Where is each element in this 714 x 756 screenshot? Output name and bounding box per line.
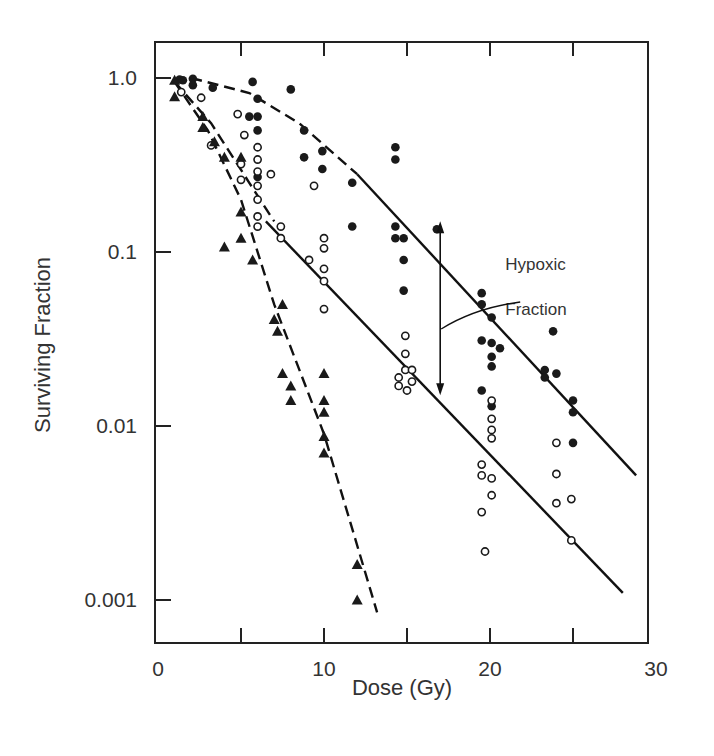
y-tick-label: 1.0 bbox=[108, 66, 137, 89]
open-circle-point bbox=[241, 131, 248, 138]
open-circle-point bbox=[403, 387, 410, 394]
filled-circle-point bbox=[540, 366, 549, 375]
filled-triangle-point bbox=[285, 395, 296, 405]
open-circle-point bbox=[277, 223, 284, 230]
filled-circle-point bbox=[253, 112, 262, 121]
filled-circle-point bbox=[253, 94, 262, 103]
filled-circle-point bbox=[477, 336, 486, 345]
filled-circle-point bbox=[399, 286, 408, 295]
open-circle-point bbox=[488, 492, 495, 499]
open-circle-point bbox=[488, 475, 495, 482]
filled-circle-point bbox=[245, 112, 254, 121]
filled-circle-point bbox=[569, 408, 578, 417]
open-circle-point bbox=[408, 378, 415, 385]
open-circle-point bbox=[488, 435, 495, 442]
filled-circle-point bbox=[318, 165, 327, 174]
filled-triangle-point bbox=[285, 380, 296, 390]
filled-circle-point bbox=[391, 222, 400, 231]
open-circle-point bbox=[254, 156, 261, 163]
filled-circle-point bbox=[300, 126, 309, 135]
filled-circle-point bbox=[487, 362, 496, 371]
open-circle-point bbox=[553, 439, 560, 446]
filled-triangle-point bbox=[277, 299, 288, 309]
filled-circle-point bbox=[253, 126, 262, 135]
filled-circle-point bbox=[399, 256, 408, 265]
filled-circle-point bbox=[540, 373, 549, 382]
filled-circle-point bbox=[300, 153, 309, 162]
filled-circle-point bbox=[348, 178, 357, 187]
x-tick-label: 30 bbox=[644, 657, 667, 680]
filled-circle-point bbox=[318, 147, 327, 156]
open-circle-point bbox=[254, 168, 261, 175]
open-circle-point bbox=[267, 171, 274, 178]
open-circle-point bbox=[237, 176, 244, 183]
filled-triangle-point bbox=[319, 395, 330, 405]
filled-circle-point bbox=[487, 352, 496, 361]
open-circle-point bbox=[277, 235, 284, 242]
open-circle-point bbox=[488, 397, 495, 404]
open-circle-point bbox=[234, 111, 241, 118]
filled-circle-point bbox=[391, 143, 400, 152]
open-circle-point bbox=[395, 382, 402, 389]
y-tick-label: 0.1 bbox=[108, 240, 137, 263]
filled-triangle-point bbox=[236, 233, 247, 243]
filled-circle-point bbox=[399, 234, 408, 243]
filled-triangle-point bbox=[352, 595, 363, 605]
filled-triangle-point bbox=[236, 152, 247, 162]
filled-triangle-point bbox=[319, 407, 330, 417]
x-tick-label: 10 bbox=[312, 657, 335, 680]
fit-curve bbox=[357, 174, 636, 475]
open-circle-point bbox=[481, 548, 488, 555]
open-circle-point bbox=[488, 415, 495, 422]
filled-circle-point bbox=[569, 396, 578, 405]
filled-circle-point bbox=[391, 155, 400, 164]
filled-circle-point bbox=[549, 327, 558, 336]
open-circle-point bbox=[478, 461, 485, 468]
filled-circle-point bbox=[348, 222, 357, 231]
filled-circle-point bbox=[552, 369, 561, 378]
y-tick-label: 0.001 bbox=[84, 588, 137, 611]
filled-triangle-point bbox=[277, 368, 288, 378]
open-circle-point bbox=[478, 509, 485, 516]
filled-triangle-point bbox=[247, 254, 258, 264]
open-circle-point bbox=[310, 182, 317, 189]
filled-circle-point bbox=[477, 300, 486, 309]
x-axis-title: Dose (Gy) bbox=[352, 675, 452, 700]
x-tick-label: 20 bbox=[478, 657, 501, 680]
open-circle-point bbox=[254, 213, 261, 220]
open-circle-point bbox=[402, 350, 409, 357]
filled-triangle-point bbox=[319, 368, 330, 378]
open-circle-point bbox=[254, 223, 261, 230]
filled-circle-point bbox=[496, 344, 505, 353]
open-circle-point bbox=[568, 537, 575, 544]
open-circle-point bbox=[198, 94, 205, 101]
x-tick-label: 0 bbox=[152, 657, 164, 680]
y-axis-title: Surviving Fraction bbox=[30, 257, 55, 433]
axis-ticks: 01020301.00.10.010.001 bbox=[84, 42, 667, 680]
open-circle-point bbox=[568, 496, 575, 503]
open-circle-point bbox=[305, 256, 312, 263]
open-circle-point bbox=[254, 196, 261, 203]
fit-curve bbox=[175, 82, 378, 612]
open-circle-point bbox=[320, 245, 327, 252]
filled-circle-point bbox=[208, 83, 217, 92]
filled-circle-point bbox=[287, 85, 296, 94]
open-circle-point bbox=[320, 305, 327, 312]
open-circle-point bbox=[320, 265, 327, 272]
filled-circle-point bbox=[487, 339, 496, 348]
open-circle-point bbox=[254, 144, 261, 151]
annotation-label: Hypoxic bbox=[505, 255, 566, 274]
open-circle-point bbox=[553, 470, 560, 477]
fit-curve bbox=[191, 78, 357, 174]
open-circle-point bbox=[478, 472, 485, 479]
filled-circle-point bbox=[179, 76, 188, 85]
y-tick-label: 0.01 bbox=[96, 414, 137, 437]
filled-triangle-point bbox=[219, 241, 230, 251]
filled-circle-point bbox=[391, 234, 400, 243]
filled-circle-point bbox=[189, 81, 198, 90]
arrow-head-down-icon bbox=[436, 383, 444, 395]
filled-circle-point bbox=[569, 439, 578, 448]
filled-triangle-point bbox=[319, 431, 330, 441]
open-circle-point bbox=[395, 374, 402, 381]
survival-curve-chart: 01020301.00.10.010.001 HypoxicFraction D… bbox=[0, 0, 714, 756]
